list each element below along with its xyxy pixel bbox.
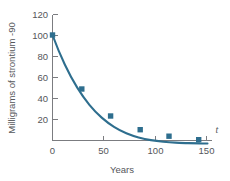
data-point xyxy=(196,137,201,142)
strontium-decay-chart: 120 100 80 60 40 20 0 50 100 150 xyxy=(0,0,230,181)
x-tick-label: 50 xyxy=(98,145,109,156)
x-axis-tick-labels: 0 50 100 150 xyxy=(50,145,215,156)
y-tick-label: 60 xyxy=(37,72,48,83)
data-markers xyxy=(50,32,202,142)
y-tick-label: 120 xyxy=(32,9,48,20)
y-axis-title: Milligrams of strontium -90 xyxy=(6,22,17,133)
x-axis-title: Years xyxy=(110,164,134,175)
x-tick-label: 100 xyxy=(148,145,164,156)
data-point xyxy=(50,32,55,37)
chart-figure: 120 100 80 60 40 20 0 50 100 150 xyxy=(0,0,230,181)
data-point xyxy=(138,127,143,132)
axis-lines xyxy=(53,15,213,141)
y-axis-tick-labels: 120 100 80 60 40 20 xyxy=(32,9,48,125)
y-axis-ticks xyxy=(53,15,58,120)
x-tick-label: 0 xyxy=(50,145,55,156)
decay-curve xyxy=(53,35,208,144)
x-variable-symbol: t xyxy=(216,124,219,135)
x-axis-ticks xyxy=(53,136,207,141)
y-tick-label: 20 xyxy=(37,114,48,125)
data-point xyxy=(166,134,171,139)
y-tick-label: 100 xyxy=(32,30,48,41)
data-point xyxy=(108,113,113,118)
y-tick-label: 80 xyxy=(37,51,48,62)
x-tick-label: 150 xyxy=(199,145,215,156)
y-tick-label: 40 xyxy=(37,93,48,104)
data-point xyxy=(79,86,84,91)
